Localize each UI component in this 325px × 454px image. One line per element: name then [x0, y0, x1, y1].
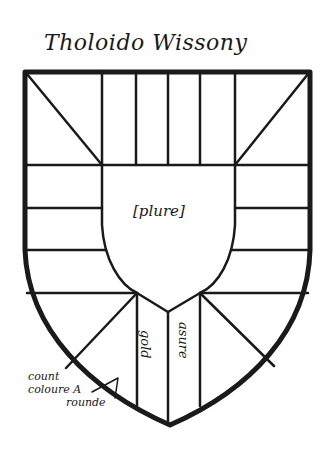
margin-note: count coloure A rounde — [28, 370, 106, 409]
diagonal-bottom-right — [200, 293, 274, 366]
diagonal-top-left — [27, 74, 102, 165]
shield-title: Tholoido Wissony — [44, 32, 247, 54]
center-label: [plure] — [133, 204, 185, 219]
margin-note-line-1: count — [28, 370, 106, 383]
diagonal-bottom-left — [66, 293, 137, 368]
margin-note-line-2: coloure A — [28, 383, 106, 396]
pale-right-label: asure — [177, 322, 190, 359]
inner-escutcheon — [102, 165, 235, 312]
margin-note-line-3: rounde — [28, 396, 106, 409]
diagonal-top-right — [235, 74, 308, 165]
pale-left-label: gold — [139, 330, 152, 359]
